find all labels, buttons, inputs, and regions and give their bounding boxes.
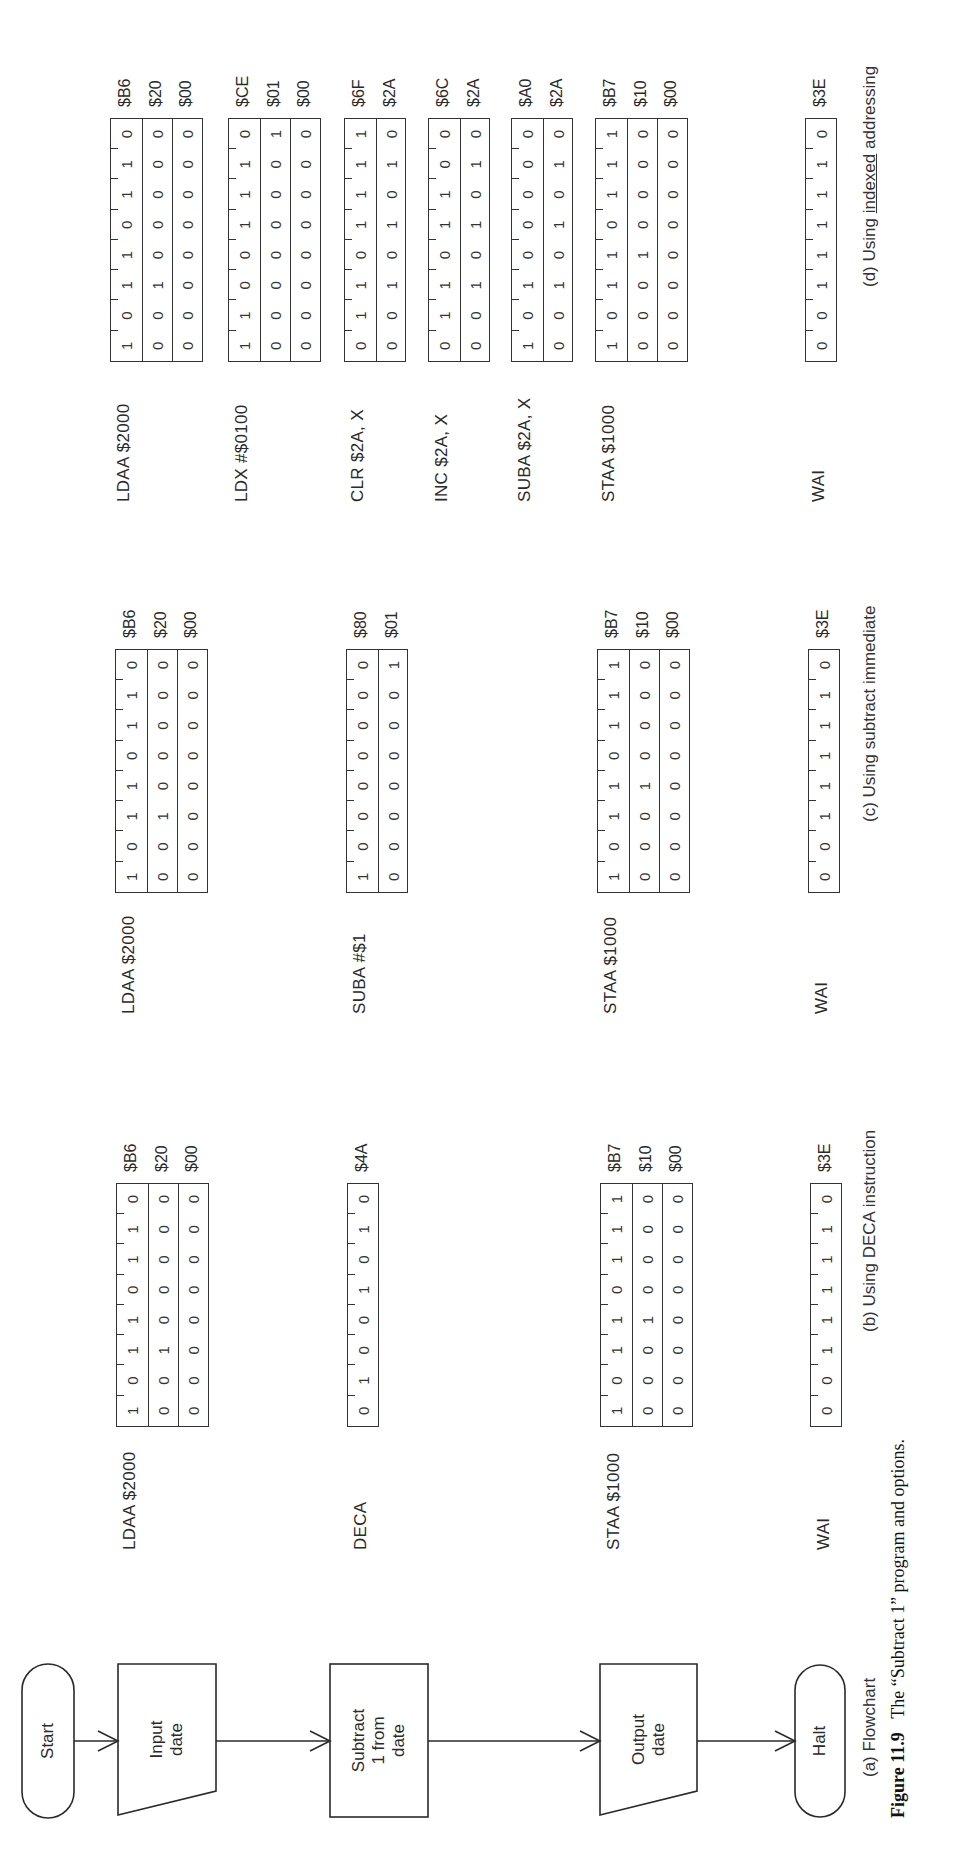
- bit-cell: 0: [628, 331, 658, 361]
- bit-cell: 0: [178, 771, 208, 801]
- bit-cell: 0: [809, 650, 840, 680]
- bit-cell: 1: [111, 331, 142, 361]
- bit-cell: 1: [512, 331, 543, 361]
- hex-value: $B6: [115, 610, 146, 638]
- memory-byte-row: 00000000: [657, 119, 688, 361]
- bit-cell: 1: [811, 1335, 842, 1365]
- bit-cell: 0: [633, 1275, 663, 1305]
- bit-cell: 0: [173, 240, 203, 270]
- bit-cell: 0: [429, 149, 460, 179]
- bit-cell: 1: [117, 1396, 148, 1426]
- bit-cell: 0: [173, 331, 203, 361]
- memory-bytes-box: 00111110: [805, 118, 837, 362]
- memory-byte-row: 00100000: [147, 650, 178, 892]
- memory-bytes-box: 110011100000000100000000: [228, 118, 321, 362]
- bit-cell: 0: [663, 1305, 693, 1335]
- bit-cell: 1: [598, 680, 629, 710]
- bit-cell: 1: [345, 119, 376, 149]
- bit-cell: 1: [116, 862, 147, 892]
- memory-byte-row: 00101010: [460, 119, 491, 361]
- bit-cell: 1: [601, 1245, 632, 1275]
- bit-cell: 1: [345, 180, 376, 210]
- bit-cell: 0: [173, 119, 203, 149]
- bit-cell: 0: [178, 680, 208, 710]
- bit-cell: 0: [628, 301, 658, 331]
- bit-cell: 0: [348, 1305, 379, 1335]
- memory-byte-row: 10110111: [601, 1184, 632, 1426]
- bit-cell: 0: [596, 301, 627, 331]
- hex-value: $3E: [808, 610, 839, 638]
- memory-bytes-box: 1000000000000001: [346, 649, 408, 893]
- bit-cell: 1: [601, 1214, 632, 1244]
- bit-cell: 1: [345, 270, 376, 300]
- instruction-mnemonic: DECA: [351, 1502, 371, 1550]
- figure-canvas: Start Input date Subtract 1 from date Ou…: [0, 0, 970, 1872]
- bit-cell: 0: [148, 862, 178, 892]
- memory-byte-row: 10110111: [598, 650, 629, 892]
- bit-cell: 0: [379, 801, 409, 831]
- bit-cell: 0: [512, 301, 543, 331]
- memory-byte-row: 01101111: [345, 119, 376, 361]
- memory-byte-row: 00111110: [809, 650, 840, 892]
- bit-cell: 1: [429, 180, 460, 210]
- bit-cell: 0: [229, 270, 260, 300]
- hex-value: $B7: [600, 1144, 631, 1172]
- memory-byte-row: 00000000: [659, 650, 690, 892]
- memory-byte-row: 00000000: [177, 650, 208, 892]
- bit-cell: 0: [660, 680, 690, 710]
- bit-cell: 1: [601, 1396, 632, 1426]
- memory-byte-row: 10110111: [596, 119, 627, 361]
- bit-cell: 0: [149, 1396, 179, 1426]
- bit-cell: 0: [179, 1396, 209, 1426]
- bit-cell: 0: [658, 240, 688, 270]
- bit-cell: 0: [179, 1305, 209, 1335]
- bit-cell: 1: [143, 270, 173, 300]
- instruction-mnemonic: LDAA $2000: [119, 916, 139, 1014]
- bit-cell: 0: [630, 711, 660, 741]
- bit-cell: 0: [811, 1366, 842, 1396]
- bit-cell: 1: [596, 180, 627, 210]
- memory-byte-row: 00000001: [378, 650, 409, 892]
- bit-cell: 1: [345, 210, 376, 240]
- hex-value: $00: [658, 611, 689, 638]
- hex-value: $A0: [511, 79, 542, 107]
- hex-value: $6F: [344, 79, 375, 107]
- figure-number: Figure 11.9: [888, 1732, 908, 1818]
- bit-cell: 0: [291, 270, 321, 300]
- bit-cell: 0: [348, 1335, 379, 1365]
- bit-cell: 0: [143, 331, 173, 361]
- hex-value: $00: [171, 80, 202, 107]
- bit-cell: 0: [461, 301, 491, 331]
- bit-cell: 0: [148, 650, 178, 680]
- instruction-mnemonic: SUBA $2A, X: [515, 398, 535, 502]
- instruction-mnemonic: WAI: [814, 1518, 834, 1550]
- bit-cell: 0: [347, 801, 378, 831]
- bit-cell: 1: [806, 149, 837, 179]
- bit-cell: 1: [806, 270, 837, 300]
- bit-cell: 0: [173, 270, 203, 300]
- bit-cell: 0: [377, 119, 407, 149]
- bit-cell: 0: [809, 862, 840, 892]
- bit-cell: 0: [512, 119, 543, 149]
- bit-cell: 0: [149, 1245, 179, 1275]
- bit-cell: 0: [628, 149, 658, 179]
- memory-byte-row: 01101100: [429, 119, 460, 361]
- memory-bytes-box: 101101110001000000000000: [597, 649, 690, 893]
- bit-cell: 0: [544, 240, 574, 270]
- bit-cell: 1: [544, 149, 574, 179]
- bit-cell: 1: [148, 801, 178, 831]
- bit-cell: 0: [658, 301, 688, 331]
- instruction-mnemonic: STAA $1000: [601, 917, 621, 1014]
- bit-cell: 0: [663, 1245, 693, 1275]
- bit-cell: 0: [628, 180, 658, 210]
- hex-value: $20: [146, 611, 177, 638]
- bit-cell: 0: [377, 180, 407, 210]
- bit-cell: 1: [596, 119, 627, 149]
- bit-cell: 1: [598, 711, 629, 741]
- memory-byte-row: 00101010: [543, 119, 574, 361]
- flowchart-node-subtract: Subtract 1 from date: [330, 1664, 428, 1817]
- bit-cell: 0: [544, 331, 574, 361]
- bit-cell: 0: [178, 862, 208, 892]
- memory-byte-row: 00000000: [290, 119, 321, 361]
- bit-cell: 0: [633, 1335, 663, 1365]
